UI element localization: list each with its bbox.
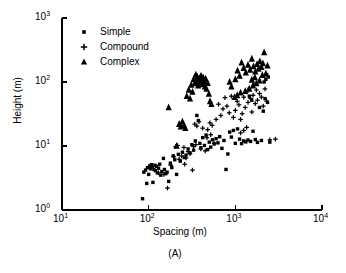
figure-caption: (A) [140,248,210,259]
y-tick-label-2: 102 [35,75,50,86]
series-simple [141,73,272,200]
legend-label-compound: Compound [100,41,149,52]
x-tick-label-4: 104 [313,213,328,224]
x-tick-label-1: 101 [53,213,68,224]
legend-label-complex: Complex [100,56,139,67]
scatter-plot-figure: Height (m) Spacing (m) (A) SimpleCompoun… [0,0,346,273]
series-compound [156,83,277,191]
y-tick-label-1: 101 [35,139,50,150]
x-tick-label-2: 102 [140,213,155,224]
legend-label-simple: Simple [100,26,131,37]
legend-marker-square-icon [78,26,90,38]
x-axis-label: Spacing (m) [120,226,240,237]
y-tick-label-3: 103 [35,11,50,22]
legend-marker-triangle-icon [78,56,90,68]
x-tick-label-3: 103 [226,213,241,224]
y-tick-label-0: 100 [35,203,50,214]
legend-marker-plus-icon [78,41,90,53]
series-complex [166,48,271,148]
y-axis-label: Height (m) [12,66,23,136]
